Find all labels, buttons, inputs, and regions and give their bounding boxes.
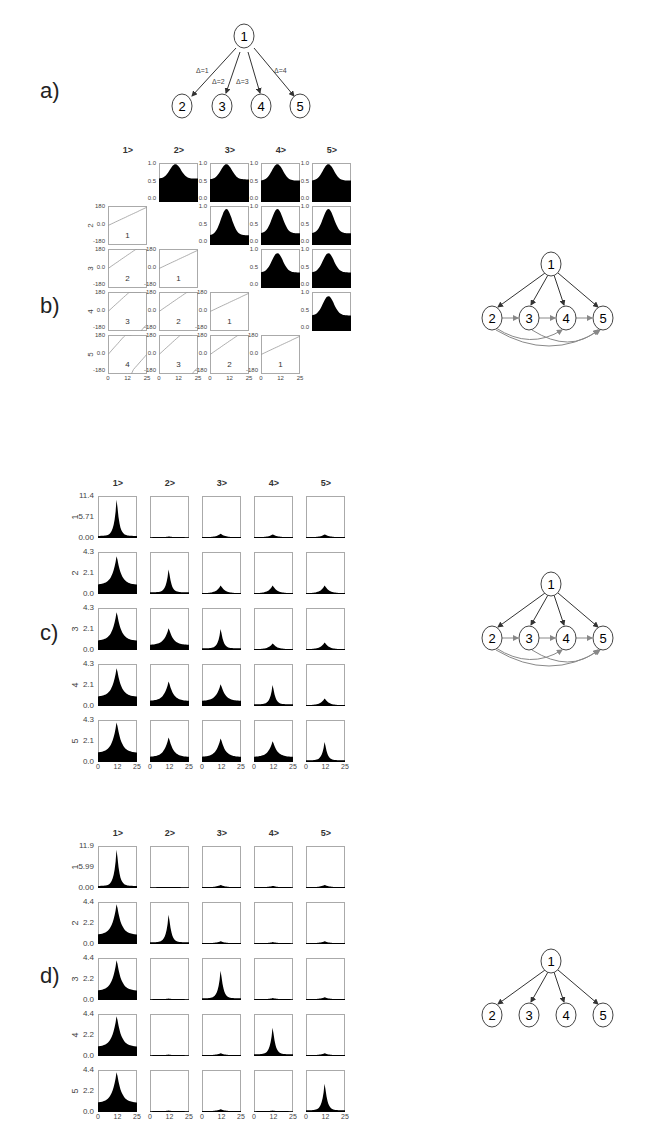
subplot	[202, 552, 241, 594]
x-tick: 0	[195, 763, 209, 770]
y-tick: 0.0	[68, 995, 94, 1004]
subplot	[202, 664, 241, 706]
x-tick: 0	[247, 763, 261, 770]
y-tick: 0.5	[287, 221, 309, 227]
svg-text:3: 3	[218, 99, 225, 114]
svg-text:3: 3	[125, 317, 130, 326]
svg-text:5: 5	[599, 311, 606, 326]
svg-text:2: 2	[178, 99, 185, 114]
node-5: 5	[593, 626, 613, 650]
x-tick: 0	[101, 375, 115, 381]
node-2: 2	[482, 306, 502, 330]
y-tick: -180	[134, 324, 156, 330]
column-label: 3>	[207, 828, 237, 838]
subplot	[306, 552, 345, 594]
x-tick: 0	[143, 1113, 157, 1120]
node-5: 5	[593, 306, 613, 330]
row-label: 4	[70, 682, 80, 687]
y-tick: 180	[185, 332, 207, 338]
y-tick: 0.0	[185, 195, 207, 201]
row-label: 1	[70, 514, 80, 519]
y-tick: 0.5	[287, 307, 309, 313]
y-tick: 0.00	[68, 533, 94, 542]
subplot	[150, 902, 189, 944]
x-tick: 25	[234, 763, 248, 770]
subplot	[150, 720, 189, 762]
graph-b-diagram: 12345	[470, 238, 630, 358]
x-tick: 25	[130, 1113, 144, 1120]
x-tick: 25	[130, 763, 144, 770]
y-tick: 0.0	[236, 195, 258, 201]
edge-label-2: Δ=2	[212, 78, 225, 85]
x-tick: 12	[319, 1113, 333, 1120]
y-tick: -180	[83, 238, 105, 244]
subplot	[98, 1070, 137, 1112]
y-tick: 1.0	[185, 203, 207, 209]
svg-text:2: 2	[125, 274, 130, 283]
subplot	[202, 958, 241, 1000]
subplot	[306, 846, 345, 888]
subplot	[254, 958, 293, 1000]
svg-text:2: 2	[488, 631, 495, 646]
svg-text:1: 1	[547, 577, 554, 592]
subplot	[150, 496, 189, 538]
svg-text:4: 4	[562, 311, 569, 326]
row-label: 3	[70, 626, 80, 631]
svg-text:1: 1	[227, 317, 232, 326]
x-tick: 12	[163, 1113, 177, 1120]
x-tick: 25	[234, 1113, 248, 1120]
y-tick: 0.0	[185, 307, 207, 313]
x-tick: 0	[152, 375, 166, 381]
y-tick: 4.3	[68, 547, 94, 556]
x-tick: 0	[254, 375, 268, 381]
svg-text:4: 4	[562, 631, 569, 646]
node-5: 5	[290, 94, 310, 118]
column-label: 4>	[266, 145, 296, 155]
x-tick: 12	[111, 1113, 125, 1120]
edge-label-3: Δ=3	[236, 78, 249, 85]
subplot	[98, 608, 137, 650]
x-tick: 12	[215, 763, 229, 770]
node-3: 3	[519, 306, 539, 330]
subplot	[254, 902, 293, 944]
y-tick: 0.0	[185, 238, 207, 244]
subplot	[98, 496, 137, 538]
svg-text:3: 3	[525, 631, 532, 646]
x-tick: 12	[163, 763, 177, 770]
row-label: 4	[70, 1032, 80, 1037]
row-label: 3	[86, 266, 95, 270]
panel-b-matrix: 1>2>3>4>5>1.00.50.01.00.50.01.00.50.01.0…	[90, 145, 430, 445]
subplot	[98, 958, 137, 1000]
subplot	[312, 163, 351, 202]
x-tick: 25	[182, 763, 196, 770]
y-tick: 0.5	[185, 178, 207, 184]
subplot: 1	[108, 206, 147, 245]
y-tick: 0.0	[287, 324, 309, 330]
y-tick: 1.0	[185, 160, 207, 166]
column-label: 3>	[215, 145, 245, 155]
subplot	[306, 1014, 345, 1056]
column-label: 2>	[155, 478, 185, 488]
subplot	[254, 608, 293, 650]
x-tick: 0	[299, 1113, 313, 1120]
subplot	[98, 552, 137, 594]
subplot	[98, 846, 137, 888]
svg-text:3: 3	[525, 1008, 532, 1023]
edge-label-1: Δ=1	[196, 67, 209, 74]
column-label: 4>	[259, 478, 289, 488]
subplot	[254, 1070, 293, 1112]
y-tick: 11.4	[68, 491, 94, 500]
svg-text:4: 4	[125, 360, 130, 369]
subplot	[150, 1070, 189, 1112]
subplot	[306, 902, 345, 944]
column-label: 5>	[317, 145, 347, 155]
y-tick: 0.0	[236, 281, 258, 287]
node-2: 2	[482, 1003, 502, 1027]
svg-text:1: 1	[278, 360, 283, 369]
y-tick: 0.5	[287, 264, 309, 270]
y-tick: 0.0	[236, 350, 258, 356]
svg-text:1: 1	[240, 29, 247, 44]
svg-text:3: 3	[176, 360, 181, 369]
y-tick: 1.0	[287, 289, 309, 295]
node-4: 4	[251, 94, 271, 118]
